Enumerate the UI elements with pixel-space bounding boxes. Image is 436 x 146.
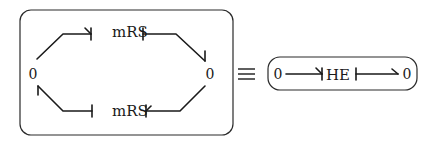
bottom-mrs-element: mRS <box>112 102 148 120</box>
half-arrow-icon <box>316 68 322 74</box>
bond-zero-to-he <box>286 68 322 80</box>
he-left-zero-junction: 0 <box>274 66 283 82</box>
he-element: HE <box>326 66 350 84</box>
bond-he-to-zero <box>356 68 398 80</box>
bond-top-left <box>37 28 91 59</box>
bond-bottom-right <box>146 86 205 117</box>
bond-graph-diagram: 0 0 mRS mRS 0 HE 0 <box>0 0 436 146</box>
he-right-zero-junction: 0 <box>403 66 412 82</box>
bond-bottom-left <box>38 86 92 117</box>
half-arrow-icon <box>85 28 91 34</box>
right-zero-junction: 0 <box>206 66 215 82</box>
equivalence-symbol <box>238 69 255 79</box>
left-zero-junction: 0 <box>29 66 38 82</box>
bond-top-right <box>143 28 205 61</box>
